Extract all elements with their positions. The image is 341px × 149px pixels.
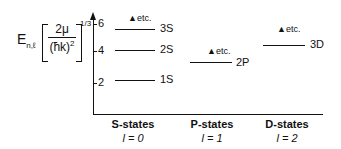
tick-label-6: 6 xyxy=(98,17,104,29)
category-s-l: l = 0 xyxy=(98,132,168,144)
level-1s xyxy=(115,80,155,81)
tick-label-2: 2 xyxy=(98,76,104,88)
exponent: 1/3 xyxy=(80,19,91,28)
tick-6 xyxy=(93,24,97,25)
diagram: En,ℓ 2μ (ħk)2 1/3 6 4 2 ▲etc. 3S 2S 1S ▲… xyxy=(0,0,341,149)
fraction: 2μ (ħk)2 xyxy=(48,22,76,54)
tick-label-4: 4 xyxy=(98,44,104,56)
denominator-text: (ħk) xyxy=(49,40,70,54)
y-axis-arrow-icon xyxy=(90,12,96,20)
level-label-2p: 2P xyxy=(236,56,249,68)
etc-text-d: etc. xyxy=(286,24,301,34)
energy-subscript: n,ℓ xyxy=(26,41,35,50)
tick-4 xyxy=(93,51,97,52)
y-axis-label: En,ℓ xyxy=(17,31,36,50)
energy-symbol: E xyxy=(17,31,26,47)
etc-arrow-s: ▲etc. xyxy=(128,13,151,23)
category-p: P-states xyxy=(177,118,247,130)
category-d-l: l = 2 xyxy=(252,132,322,144)
denominator-exponent: 2 xyxy=(70,39,74,48)
level-3d xyxy=(263,45,305,46)
category-p-l: l = 1 xyxy=(177,132,247,144)
bracket-right xyxy=(76,24,82,62)
y-axis xyxy=(93,16,94,115)
x-axis xyxy=(93,114,323,115)
level-2s xyxy=(115,50,155,51)
fraction-denominator: (ħk)2 xyxy=(48,39,76,54)
level-label-2s: 2S xyxy=(160,43,173,55)
etc-arrow-d: ▲etc. xyxy=(277,24,300,34)
etc-text-p: etc. xyxy=(216,46,231,56)
category-d: D-states xyxy=(252,118,322,130)
level-3s xyxy=(115,29,155,30)
tick-2 xyxy=(93,83,97,84)
etc-text-s: etc. xyxy=(137,13,152,23)
level-label-3s: 3S xyxy=(160,22,173,34)
category-s: S-states xyxy=(98,118,168,130)
level-label-3d: 3D xyxy=(310,38,324,50)
level-label-1s: 1S xyxy=(160,73,173,85)
level-2p xyxy=(190,62,232,63)
etc-arrow-p: ▲etc. xyxy=(207,46,230,56)
fraction-numerator: 2μ xyxy=(48,22,76,36)
